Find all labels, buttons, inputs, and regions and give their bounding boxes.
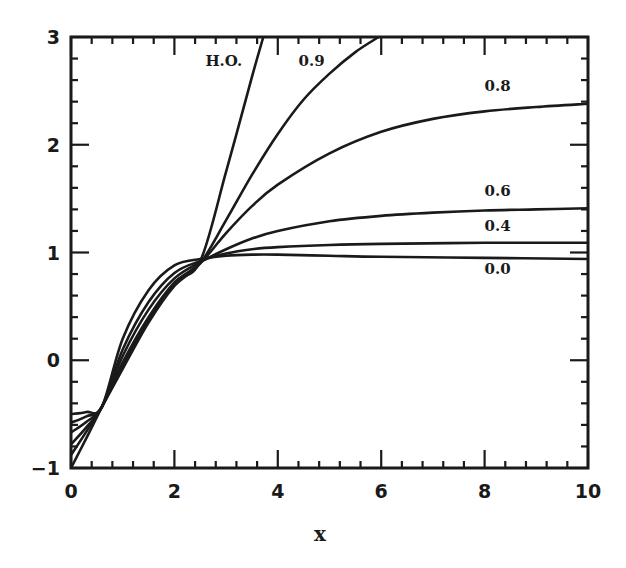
curves bbox=[71, 37, 588, 468]
curve-label: 0.4 bbox=[485, 217, 511, 235]
curve-label: 0.8 bbox=[485, 77, 511, 95]
y-tick-label: 0 bbox=[47, 349, 60, 371]
x-tick-label: 0 bbox=[64, 480, 77, 502]
x-tick-label: 2 bbox=[168, 480, 181, 502]
y-tick-label: 3 bbox=[47, 26, 60, 48]
curve-label: 0.9 bbox=[298, 52, 324, 70]
x-tick-label: 10 bbox=[575, 480, 601, 502]
chart: 0246810−10123 H.O.0.90.80.60.40.0 x bbox=[0, 0, 626, 568]
x-tick-label: 8 bbox=[478, 480, 491, 502]
x-tick-label: 6 bbox=[375, 480, 388, 502]
axis-ticks bbox=[71, 37, 588, 468]
y-tick-label: −1 bbox=[31, 457, 60, 479]
y-tick-label: 2 bbox=[47, 134, 60, 156]
x-tick-label: 4 bbox=[271, 480, 284, 502]
x-axis-title: x bbox=[314, 522, 327, 546]
curve-label: 0.6 bbox=[485, 182, 511, 200]
curve-label: H.O. bbox=[205, 52, 242, 70]
y-tick-label: 1 bbox=[47, 242, 60, 264]
tick-labels: 0246810−10123 bbox=[31, 26, 601, 502]
curve-00 bbox=[71, 255, 588, 415]
plot-frame bbox=[71, 37, 588, 468]
curve-label: 0.0 bbox=[485, 260, 511, 278]
